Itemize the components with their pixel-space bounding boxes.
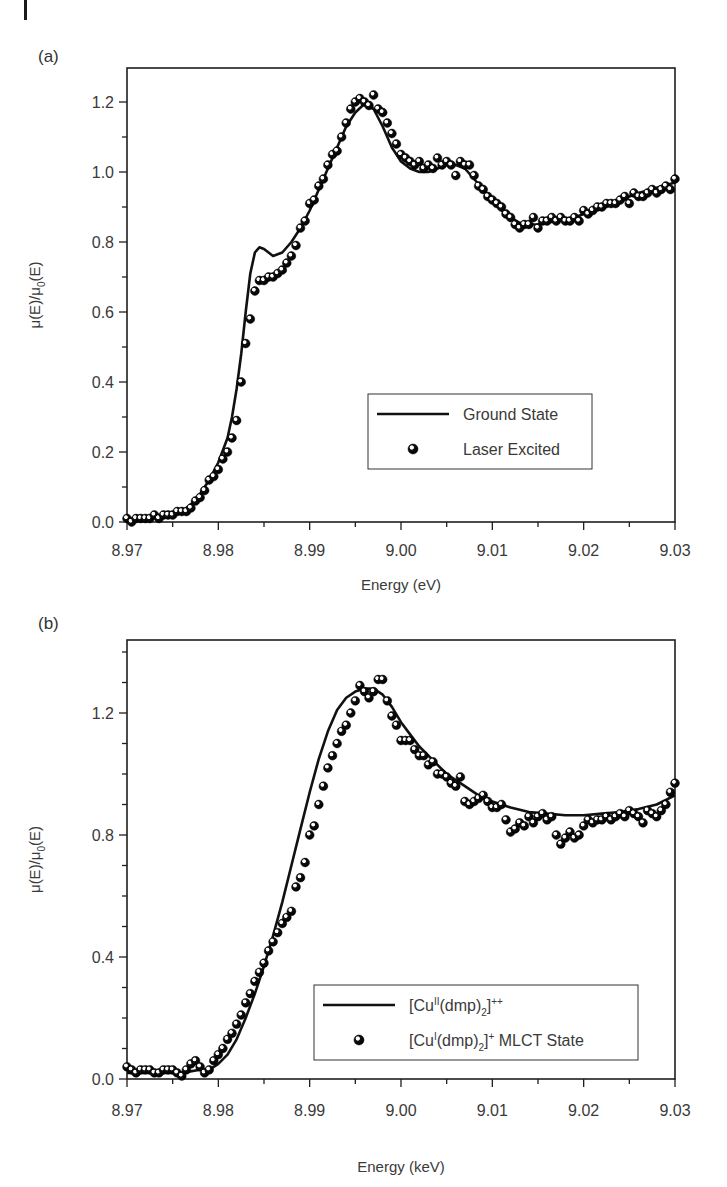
data-marker: [447, 161, 456, 170]
data-marker: [383, 696, 392, 705]
chart-panel-b: 0.00.40.81.28.978.988.999.009.019.029.03…: [26, 640, 691, 1175]
data-marker: [429, 164, 438, 173]
data-marker: [287, 252, 296, 261]
legend: [CuII(dmp)2]++[CuI(dmp)2]+ MLCT State: [314, 985, 638, 1060]
data-marker: [251, 287, 260, 296]
data-marker: [369, 687, 378, 696]
data-marker: [273, 928, 282, 937]
x-tick-label: 9.00: [385, 1102, 416, 1119]
data-marker: [378, 675, 387, 684]
data-marker: [319, 782, 328, 791]
data-marker: [365, 101, 374, 110]
data-marker: [388, 129, 397, 138]
xas-figure: 0.00.20.40.60.81.01.28.978.988.999.009.0…: [0, 0, 727, 1187]
data-marker: [319, 175, 328, 184]
data-marker: [419, 751, 428, 760]
data-marker: [246, 989, 255, 998]
data-marker: [241, 998, 250, 1007]
legend: Ground StateLaser Excited: [368, 394, 592, 469]
data-marker: [237, 1011, 246, 1020]
data-marker: [497, 800, 506, 809]
data-marker: [547, 812, 556, 821]
chart-panel-a: 0.00.20.40.60.81.01.28.978.988.999.009.0…: [26, 68, 691, 593]
legend-marker-swatch: [354, 1035, 364, 1045]
y-tick-label: 0.4: [92, 374, 114, 391]
data-marker: [520, 822, 529, 831]
data-marker: [246, 315, 255, 324]
x-tick-label: 9.01: [477, 542, 508, 559]
data-marker: [392, 140, 401, 149]
data-marker: [662, 800, 671, 809]
data-marker: [219, 1044, 228, 1053]
data-marker: [666, 788, 675, 797]
data-marker: [451, 782, 460, 791]
data-marker: [292, 241, 301, 250]
data-marker: [214, 465, 223, 474]
data-marker: [310, 196, 319, 205]
data-marker: [324, 764, 333, 773]
x-tick-label: 8.98: [203, 1102, 234, 1119]
data-marker: [625, 199, 634, 208]
data-marker: [465, 161, 474, 170]
data-marker: [333, 147, 342, 156]
data-marker: [552, 831, 561, 840]
data-marker: [383, 119, 392, 128]
data-marker: [392, 721, 401, 730]
data-marker: [406, 736, 415, 745]
data-marker: [639, 818, 648, 827]
y-tick-label: 0.8: [92, 234, 114, 251]
data-marker: [328, 751, 337, 760]
x-tick-label: 8.97: [111, 1102, 142, 1119]
data-marker: [200, 486, 209, 495]
data-marker: [324, 161, 333, 170]
data-marker: [241, 339, 250, 348]
x-tick-label: 8.98: [203, 542, 234, 559]
data-marker: [255, 968, 264, 977]
data-marker: [301, 217, 310, 226]
y-tick-label: 1.0: [92, 164, 114, 181]
data-marker: [346, 709, 355, 718]
data-marker: [671, 175, 680, 184]
data-marker: [666, 185, 675, 194]
data-marker: [470, 171, 479, 180]
data-marker: [502, 815, 511, 824]
data-marker: [287, 907, 296, 916]
x-tick-label: 9.03: [659, 1102, 690, 1119]
data-marker: [305, 831, 314, 840]
y-axis-label: μ(E)/μ0(E): [26, 261, 47, 328]
data-marker: [333, 739, 342, 748]
data-marker: [337, 133, 346, 142]
legend-marker-swatch: [408, 444, 418, 454]
data-marker: [429, 757, 438, 766]
data-marker: [369, 91, 378, 100]
data-marker: [529, 213, 538, 222]
x-axis-label: Energy (keV): [357, 1158, 445, 1175]
x-tick-label: 9.03: [659, 542, 690, 559]
data-marker: [314, 800, 323, 809]
data-marker: [292, 883, 301, 892]
x-tick-label: 8.99: [294, 1102, 325, 1119]
data-marker: [232, 1020, 241, 1029]
data-marker: [237, 378, 246, 387]
data-marker: [378, 108, 387, 117]
x-tick-label: 9.02: [568, 1102, 599, 1119]
x-axis-label: Energy (eV): [361, 576, 441, 593]
y-tick-label: 0.2: [92, 444, 114, 461]
y-tick-label: 0.0: [92, 514, 114, 531]
y-tick-label: 0.8: [92, 827, 114, 844]
data-marker: [342, 721, 351, 730]
x-tick-label: 9.00: [385, 542, 416, 559]
data-marker: [351, 696, 360, 705]
x-tick-label: 8.99: [294, 542, 325, 559]
data-marker: [575, 831, 584, 840]
data-marker: [451, 171, 460, 180]
y-tick-label: 1.2: [92, 705, 114, 722]
legend-label-markers: Laser Excited: [463, 441, 560, 458]
data-marker: [228, 1029, 237, 1038]
y-tick-label: 0.6: [92, 304, 114, 321]
y-axis-label: μ(E)/μ0(E): [26, 826, 47, 893]
data-marker: [205, 1065, 214, 1074]
data-marker: [260, 959, 269, 968]
data-marker: [456, 773, 465, 782]
data-marker: [310, 822, 319, 831]
